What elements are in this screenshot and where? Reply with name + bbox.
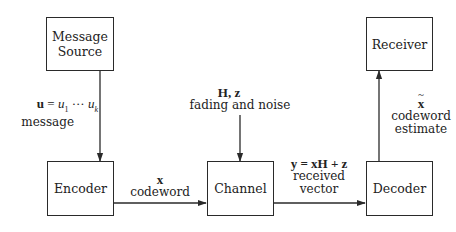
received-vector-label: y = xH + z received vector <box>278 157 360 196</box>
channel-block: Channel <box>207 161 274 216</box>
received-text-2: vector <box>278 183 360 196</box>
source-encoder-label: u = u1 ··· uk message <box>20 97 98 129</box>
receiver-block: Receiver <box>366 17 433 71</box>
message-source-line1: Message <box>52 29 108 44</box>
encoder-label: Encoder <box>54 181 107 196</box>
encoder-block: Encoder <box>47 161 114 216</box>
fading-noise-text: fading and noise <box>180 99 300 112</box>
estimate-text-2: estimate <box>381 123 456 136</box>
decoder-block: Decoder <box>366 161 433 216</box>
codeword-label: x codeword <box>125 173 195 199</box>
codeword-text: codeword <box>125 186 195 199</box>
receiver-label: Receiver <box>372 37 428 52</box>
message-source-line2: Source <box>52 44 108 59</box>
message-vector-math: u = u1 ··· uk <box>20 97 98 116</box>
noise-label: H, z fading and noise <box>180 86 300 112</box>
channel-label: Channel <box>214 181 267 196</box>
message-text: message <box>20 116 98 129</box>
decoder-label: Decoder <box>373 181 426 196</box>
message-source-block: Message Source <box>46 17 114 71</box>
estimate-label: x codeword estimate <box>381 97 456 136</box>
